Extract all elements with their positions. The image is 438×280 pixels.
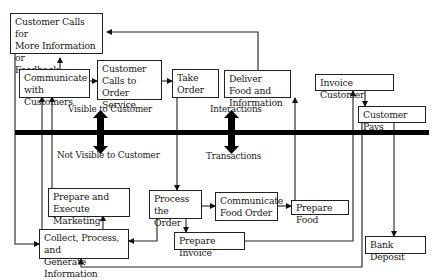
node-bank-deposit: Bank Deposit <box>365 236 426 254</box>
node-process-order: Process the Order <box>149 190 202 219</box>
node-deliver-food: Deliver Food and Information <box>224 70 291 98</box>
node-take-order: Take Order <box>172 69 219 98</box>
label-transactions: Transactions <box>206 151 261 161</box>
node-collect-info: Collect, Process, and Generate Informati… <box>39 229 129 259</box>
label-interactions: Interactions <box>210 104 262 114</box>
node-prepare-food: Prepare Food <box>291 200 349 215</box>
node-marketing-campaign: Prepare and Execute Marketing Campaign <box>48 188 130 217</box>
node-invoice-customer: Invoice Customer <box>315 74 394 91</box>
node-communicate-customers: Communicate with Customers <box>19 69 90 98</box>
node-customer-calls-info: Customer Calls for More Information or F… <box>10 13 103 54</box>
service-blueprint-diagram: Customer Calls for More Information or F… <box>0 0 438 280</box>
node-customer-calls-order: Customer Calls to Order Service <box>97 60 162 100</box>
node-prepare-invoice: Prepare Invoice <box>174 232 245 250</box>
label-visible-to-customer: Visible to Customer <box>68 104 152 114</box>
node-customer-pays: Customer Pays <box>358 106 426 123</box>
node-communicate-food-order: Communicate Food Order <box>215 192 278 221</box>
label-not-visible-to-customer: Not Visible to Customer <box>57 150 160 160</box>
